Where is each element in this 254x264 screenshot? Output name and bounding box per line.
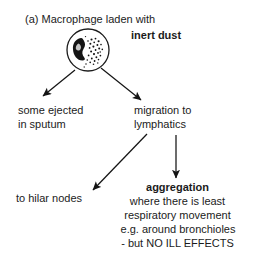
outcome-aggregation-line2: respiratory movement [110,209,245,223]
macrophage-cell-icon [64,26,112,74]
branch-left-line2: in sputum [18,118,66,132]
figure-title-emphasis: inert dust [131,29,181,43]
outcome-aggregation-line1: where there is least [110,195,245,209]
outcome-aggregation-line4: - but NO ILL EFFECTS [110,237,245,251]
macrophage-inert-dust-diagram: (a) Macrophage laden with inert dust [0,0,254,264]
branch-left-line1: some ejected [18,104,83,118]
figure-title: (a) Macrophage laden with [25,13,155,27]
branch-right-line2: lymphatics [134,118,186,132]
outcome-aggregation-heading: aggregation [110,181,245,195]
outcome-aggregation-line3: e.g. around bronchioles [108,223,248,237]
branch-right-line1: migration to [134,104,191,118]
outcome-hilar-nodes: to hilar nodes [16,192,82,206]
